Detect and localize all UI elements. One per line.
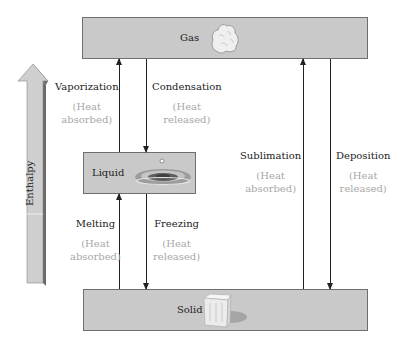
vaporization-note: (Heatabsorbed) — [55, 101, 119, 126]
condensation-label-group: Condensation (Heatreleased) — [152, 81, 222, 126]
vaporization-label-group: Vaporization (Heatabsorbed) — [55, 81, 119, 126]
gas-label: Gas — [180, 32, 199, 43]
sublimation-label: Sublimation — [240, 150, 301, 161]
sublimation-label-group: Sublimation (Heatabsorbed) — [240, 150, 301, 195]
sublimation-note: (Heatabsorbed) — [240, 170, 301, 195]
deposition-label-group: Deposition (Heatreleased) — [336, 150, 390, 195]
condensation-label: Condensation — [152, 81, 222, 92]
gas-cloud-icon — [210, 22, 240, 54]
freezing-label: Freezing — [153, 218, 200, 229]
ice-cube-icon — [201, 292, 251, 330]
liquid-state-box: Liquid — [83, 152, 196, 194]
vaporization-label: Vaporization — [55, 81, 119, 92]
sublimation-arrow — [303, 59, 304, 289]
liquid-label: Liquid — [92, 167, 124, 178]
deposition-label: Deposition — [336, 150, 390, 161]
gas-state-box: Gas — [82, 17, 368, 59]
freezing-arrow — [146, 194, 147, 289]
condensation-note: (Heatreleased) — [152, 101, 222, 126]
condensation-arrow — [146, 59, 147, 152]
freezing-label-group: Freezing (Heatreleased) — [153, 218, 200, 263]
solid-state-box: Solid — [83, 289, 368, 331]
water-drop-splash-icon — [132, 157, 194, 191]
solid-label: Solid — [177, 304, 203, 315]
melting-label: Melting — [70, 218, 121, 229]
melting-note: (Heatabsorbed) — [70, 238, 121, 263]
freezing-note: (Heatreleased) — [153, 238, 200, 263]
vaporization-arrow — [119, 59, 120, 152]
deposition-arrow — [330, 59, 331, 289]
deposition-note: (Heatreleased) — [336, 170, 390, 195]
melting-label-group: Melting (Heatabsorbed) — [70, 218, 121, 263]
enthalpy-label: Enthalpy — [24, 161, 35, 206]
